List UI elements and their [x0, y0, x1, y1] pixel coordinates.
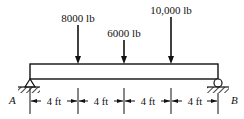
load-arrow-3 [168, 17, 174, 64]
load-label-2: 6000 lb [107, 27, 141, 39]
pin-support-icon [18, 79, 40, 93]
dimension-label-4: 4 ft [188, 96, 202, 107]
beam-diagram: 8000 lb 6000 lb 10,000 lb A B 4 ft 4 ft [0, 0, 244, 119]
dimension-segment-3: 4 ft [125, 96, 170, 107]
dimension-segment-2: 4 ft [79, 96, 123, 107]
load-label-3: 10,000 lb [150, 4, 192, 16]
dimension-label-3: 4 ft [141, 96, 155, 107]
load-label-1: 8000 lb [61, 12, 95, 24]
roller-support-icon [207, 79, 229, 93]
support-label-a: A [8, 94, 16, 106]
dimension-segment-1: 4 ft [31, 96, 77, 107]
dimension-segment-4: 4 ft [172, 96, 217, 107]
dimension-label-2: 4 ft [94, 96, 108, 107]
load-arrow-2 [121, 40, 127, 64]
support-label-b: B [231, 94, 238, 106]
beam [30, 64, 218, 79]
dimension-label-1: 4 ft [47, 96, 61, 107]
load-arrow-1 [75, 25, 81, 64]
